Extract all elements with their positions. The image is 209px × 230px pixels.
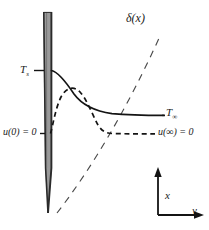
boundary-layer-figure: δ(x) Ts T∞ u(0) = 0 u(∞) = 0 x y [0,0,209,230]
figure-canvas [0,0,209,230]
temperature-profile-curve [52,71,165,116]
axis-x-arrowhead [154,167,161,177]
label-ambient-temperature-sub: ∞ [172,113,177,121]
label-free-stream-velocity: u(∞) = 0 [158,127,194,137]
label-surface-temperature: Ts [20,64,29,78]
label-surface-temperature-sub: s [26,70,29,78]
label-delta-x: δ(x) [126,12,145,24]
label-axis-y: y [192,205,197,216]
vertical-plate [43,12,52,213]
boundary-layer-edge-line [57,36,160,213]
label-axis-x: x [165,190,170,201]
label-ambient-temperature: T∞ [166,107,177,121]
label-wall-velocity: u(0) = 0 [3,127,36,137]
